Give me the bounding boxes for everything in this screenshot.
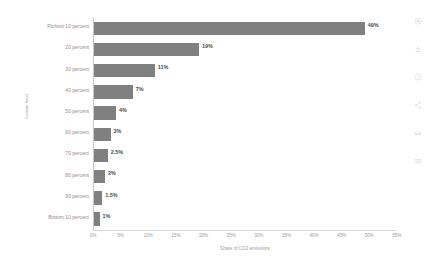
bar-row: 80 percent2% [93,166,397,187]
category-label: 20 percent [65,44,89,50]
bar-row: Bottom 10 percent1% [93,209,397,230]
bar-row: 30 percent11% [93,60,397,81]
x-tick-label: 20% [199,233,208,238]
download-icon[interactable] [413,44,423,54]
bar[interactable] [94,85,133,98]
bar-value-label: 19% [202,43,213,49]
menu-icon[interactable] [413,156,423,166]
bar[interactable] [94,191,102,204]
category-label: 40 percent [65,87,89,93]
bar[interactable] [94,22,365,35]
bar[interactable] [94,212,100,225]
settings-icon[interactable] [413,16,423,26]
category-label: 70 percent [65,150,89,156]
bar-value-label: 49% [368,22,379,28]
info-icon[interactable] [413,72,423,82]
bar-value-label: 2% [108,170,116,176]
bar[interactable] [94,128,111,141]
bar-row: 70 percent2.5% [93,145,397,166]
category-label: 60 percent [65,129,89,135]
x-tick-label: 5% [117,233,124,238]
bar-row: 20 percent19% [93,39,397,60]
x-tick-label: 50% [365,233,374,238]
bar[interactable] [94,64,155,77]
x-tick-label: 30% [254,233,263,238]
category-label: 30 percent [65,66,89,72]
bar[interactable] [94,170,105,183]
category-label: Richest 10 percent [47,23,89,29]
bar-value-label: 7% [136,86,144,92]
category-label: 90 percent [65,193,89,199]
x-tick-label: 55% [392,233,401,238]
x-tick-label: 25% [227,233,236,238]
quote-icon[interactable] [413,128,423,138]
plot-area: Richest 10 percent49%20 percent19%30 per… [93,18,397,230]
bar-row: 60 percent3% [93,124,397,145]
x-tick-label: 15% [171,233,180,238]
share-icon[interactable] [413,100,423,110]
y-axis-title: Income level [24,77,29,137]
bar-value-label: 1% [103,213,111,219]
x-tick-label: 45% [337,233,346,238]
right-icon-rail [406,16,430,166]
bar-row: 90 percent1.5% [93,188,397,209]
co2-emissions-by-income-bar-chart: Income level Richest 10 percent49%20 per… [0,0,436,269]
x-tick-label: 0% [90,233,97,238]
bar-value-label: 2.5% [111,149,123,155]
category-label: 80 percent [65,172,89,178]
bar-value-label: 3% [114,128,122,134]
bar-value-label: 11% [158,64,169,70]
category-label: Bottom 10 percent [48,214,89,220]
bar[interactable] [94,106,116,119]
bar[interactable] [94,149,108,162]
x-axis-title: Share of CO2 emissions [93,246,397,251]
category-label: 50 percent [65,108,89,114]
bar-row: 50 percent4% [93,103,397,124]
x-axis-line [93,230,397,231]
bar-row: Richest 10 percent49% [93,18,397,39]
bar-value-label: 1.5% [105,192,117,198]
x-tick-label: 40% [309,233,318,238]
bar-value-label: 4% [119,107,127,113]
x-tick-label: 35% [282,233,291,238]
x-tick-label: 10% [144,233,153,238]
bar-row: 40 percent7% [93,82,397,103]
bar[interactable] [94,43,199,56]
